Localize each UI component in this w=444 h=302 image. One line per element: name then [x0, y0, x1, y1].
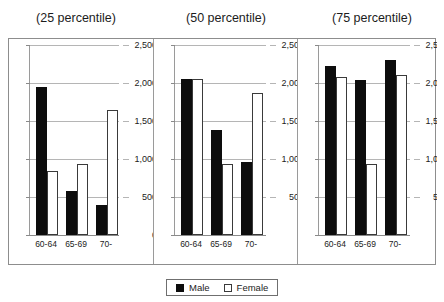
gridline	[30, 235, 119, 236]
x-axis-tick-label: 65-69	[354, 239, 376, 249]
bar-female	[252, 93, 263, 235]
x-axis-tick-label: 60-64	[324, 239, 346, 249]
x-axis-tick-label: 70-	[100, 239, 112, 249]
panel-title-50: (50 percentile)	[152, 11, 300, 29]
bar-male	[355, 80, 366, 235]
y-label-leader	[123, 197, 129, 198]
panel-title-25: (25 percentile)	[0, 11, 152, 29]
legend-label-female: Female	[237, 282, 269, 293]
bar-series	[30, 45, 119, 235]
y-label-leader	[123, 83, 129, 84]
bar-female	[77, 164, 88, 235]
y-label-leader	[123, 45, 129, 46]
x-axis-tick-label: 70-	[245, 239, 257, 249]
y-axis-tick-label: 2,000	[281, 78, 297, 88]
y-axis-tick-label: 2,500	[134, 40, 153, 50]
plot-area	[318, 45, 410, 235]
gridline	[319, 235, 410, 236]
y-axis-tick	[171, 235, 175, 236]
x-axis-tick-label: 65-69	[210, 239, 232, 249]
y-axis-tick-label: 2,000	[134, 78, 153, 88]
y-label-leader	[270, 121, 276, 122]
y-axis-labels: 05001,0001,5002,0002,500	[414, 45, 437, 235]
y-axis-tick-label: 2,500	[425, 40, 437, 50]
y-axis-tick-label: 1,500	[281, 116, 297, 126]
x-axis-tick-label: 65-69	[65, 239, 87, 249]
x-axis-labels: 60-6465-6970-	[29, 239, 119, 253]
legend-swatch-female-icon	[224, 284, 232, 292]
bar-male	[36, 87, 47, 235]
y-axis-labels: 05001,0001,5002,0002,500	[270, 45, 297, 235]
x-axis-labels: 60-6465-6970-	[174, 239, 266, 253]
y-axis-tick-label: 2,000	[425, 78, 437, 88]
y-label-leader	[270, 159, 276, 160]
bar-female	[107, 110, 118, 235]
y-label-leader	[123, 121, 129, 122]
panel-50-percentile: 05001,0001,5002,0002,50060-6465-6970-	[154, 39, 297, 264]
bar-series	[175, 45, 266, 235]
y-axis-tick-label: 500	[142, 192, 153, 202]
bar-male	[181, 79, 192, 235]
y-axis-tick-label: 1,000	[425, 154, 437, 164]
bar-male	[211, 130, 222, 235]
y-label-leader	[414, 45, 420, 46]
panel-titles-row: (25 percentile) (50 percentile) (75 perc…	[0, 11, 444, 29]
panel-title-75: (75 percentile)	[300, 11, 444, 29]
bar-male	[241, 162, 252, 235]
y-label-leader	[270, 83, 276, 84]
bar-male	[66, 191, 77, 235]
x-axis-tick-label: 70-	[389, 239, 401, 249]
y-axis-tick-label: 1,500	[425, 116, 437, 126]
y-label-leader	[270, 197, 276, 198]
y-label-leader	[270, 45, 276, 46]
y-axis-tick-label: 2,500	[281, 40, 297, 50]
bar-series	[319, 45, 410, 235]
bar-female	[47, 171, 58, 235]
y-axis-tick-label: 1,000	[281, 154, 297, 164]
gridline	[175, 235, 266, 236]
legend-item-male: Male	[176, 282, 210, 293]
y-axis-tick-label: 1,000	[134, 154, 153, 164]
legend-label-male: Male	[189, 282, 210, 293]
bar-female	[366, 164, 377, 235]
legend-swatch-male-icon	[176, 284, 184, 292]
y-label-leader	[414, 159, 420, 160]
y-label-leader	[414, 121, 420, 122]
x-axis-labels: 60-6465-6970-	[318, 239, 410, 253]
chart-frame: 05001,0001,5002,0002,50060-6465-6970- 05…	[8, 38, 436, 265]
y-axis-tick	[315, 235, 319, 236]
panel-25-percentile: 05001,0001,5002,0002,50060-6465-6970-	[9, 39, 153, 264]
y-axis-tick-label: 1,500	[134, 116, 153, 126]
y-axis-tick-label: 0	[152, 230, 153, 240]
y-label-leader	[414, 197, 420, 198]
legend-item-female: Female	[224, 282, 269, 293]
y-axis-labels: 05001,0001,5002,0002,500	[123, 45, 153, 235]
bar-female	[396, 75, 407, 235]
chart-legend: Male Female	[166, 279, 278, 296]
y-label-leader	[123, 159, 129, 160]
x-axis-tick-label: 60-64	[35, 239, 57, 249]
y-label-leader	[414, 83, 420, 84]
bar-female	[222, 164, 233, 235]
x-axis-tick-label: 60-64	[180, 239, 202, 249]
panel-75-percentile: 05001,0001,5002,0002,50060-6465-6970-	[298, 39, 437, 264]
bar-male	[325, 66, 336, 235]
y-axis-tick-label: 500	[433, 192, 437, 202]
bar-male	[96, 205, 107, 235]
bar-female	[192, 79, 203, 235]
y-axis-tick-label: 500	[289, 192, 297, 202]
plot-area	[174, 45, 266, 235]
y-axis-tick	[26, 235, 30, 236]
bar-female	[336, 77, 347, 235]
plot-area	[29, 45, 119, 235]
bar-male	[385, 60, 396, 235]
